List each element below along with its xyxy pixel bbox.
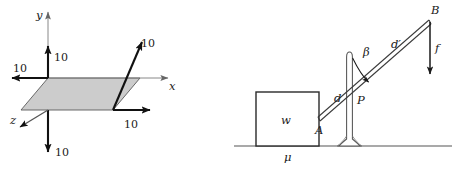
axis-label-z: z — [9, 113, 17, 127]
coordinate-axes-svg: y x z 10 10 10 10 10 — [0, 0, 226, 170]
dimension-label-diagonal: 10 — [141, 37, 155, 50]
dimension-label-x-negative: 10 — [13, 62, 27, 75]
distance-d-label: d — [334, 91, 341, 105]
dimension-label-y-down: 10 — [55, 146, 69, 159]
point-b-label: B — [430, 3, 439, 17]
block-weight-label: w — [281, 113, 291, 127]
friction-label: μ — [284, 150, 291, 164]
lever-bar-lower-edge — [320, 24, 431, 121]
dimension-label-x-positive-bottom: 10 — [124, 118, 138, 131]
axis-label-y: y — [35, 8, 43, 22]
figure-coordinate-axes: y x z 10 10 10 10 10 — [0, 0, 226, 170]
dimension-label-y-up: 10 — [54, 51, 68, 64]
angle-beta-arc — [353, 58, 369, 82]
point-a-label: A — [314, 123, 323, 137]
shaded-parallelogram — [21, 78, 140, 110]
angle-beta-label: β — [362, 45, 370, 59]
axis-label-x: x — [169, 79, 176, 93]
point-p-label: P — [356, 93, 365, 107]
figure-page: y x z 10 10 10 10 10 w — [0, 0, 452, 170]
vector-diagonal — [113, 42, 142, 110]
force-f-label: f — [434, 41, 441, 55]
z-axis-line — [20, 110, 48, 127]
figure-lever-block-fulcrum: w μ f β A B P d d′ — [226, 0, 452, 170]
lever-diagram-svg: w μ f β A B P d d′ — [226, 0, 452, 170]
distance-d-prime-label: d′ — [391, 37, 401, 51]
